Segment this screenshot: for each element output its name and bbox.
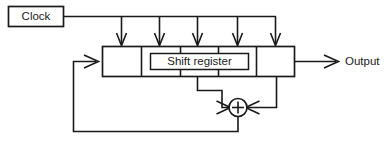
output-label: Output xyxy=(345,55,380,67)
clock-arrow-5 xyxy=(271,17,281,46)
clock-arrow-4 xyxy=(233,17,243,46)
shift-register-block[interactable]: Shift register xyxy=(103,47,295,77)
clock-block[interactable]: Clock xyxy=(9,7,64,27)
tap-right-wire xyxy=(247,77,277,108)
xor-adder[interactable] xyxy=(229,99,247,117)
clock-tick-arrows xyxy=(117,17,281,46)
clock-arrow-1 xyxy=(117,17,127,46)
lfsr-diagram: Clock xyxy=(0,0,392,150)
clock-arrow-2 xyxy=(155,17,165,46)
output-branch: Output xyxy=(295,55,381,68)
lfsr-diagram-canvas: Clock xyxy=(0,0,392,150)
tap-left-wire xyxy=(198,77,230,108)
clock-label: Clock xyxy=(22,10,51,22)
clock-arrow-3 xyxy=(193,17,203,46)
shift-register-label: Shift register xyxy=(167,55,232,67)
